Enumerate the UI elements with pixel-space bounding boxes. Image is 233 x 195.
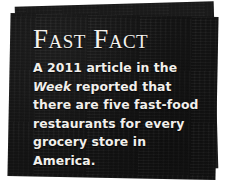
callout-body-lead: A 2011 article in the [33,60,177,75]
callout-front-panel: Fast Fact A 2011 article in the Week rep… [7,13,218,180]
callout-body-text: A 2011 article in the Week reported that… [33,59,207,170]
callout-body-source: Week [33,79,71,94]
callout-title: Fast Fact [33,24,207,54]
callout-content: Fast Fact A 2011 article in the Week rep… [9,15,217,178]
fast-fact-callout: Fast Fact A 2011 article in the Week rep… [0,0,233,195]
